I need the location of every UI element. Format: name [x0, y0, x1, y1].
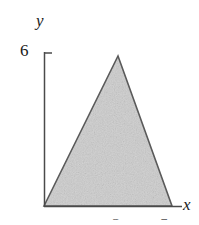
x-axis-tick-label-5: 5 [160, 216, 169, 220]
x-axis-label: x [183, 196, 191, 213]
triangle-figure: y x 6 2 5 [0, 0, 199, 225]
shaded-triangle-texture [44, 56, 172, 206]
y-axis-label: y [36, 12, 44, 29]
y-axis-tick-label-6: 6 [20, 42, 29, 59]
plot-canvas [0, 0, 199, 225]
x-axis-tick-label-2: 2 [112, 216, 121, 220]
